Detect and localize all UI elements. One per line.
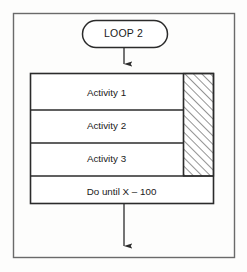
activity-row-3-label: Activity 3 xyxy=(30,154,183,164)
activity-row-1-label: Activity 1 xyxy=(30,88,183,98)
loop-condition-label: Do until X – 100 xyxy=(30,187,213,197)
loop-terminal-label: LOOP 2 xyxy=(0,28,247,39)
activity-row-2-label: Activity 2 xyxy=(30,121,183,131)
flowchart-canvas xyxy=(0,0,247,272)
flowchart-figure: LOOP 2 Activity 1 Activity 2 Activity 3 … xyxy=(0,0,247,272)
hatched-region xyxy=(184,74,214,177)
